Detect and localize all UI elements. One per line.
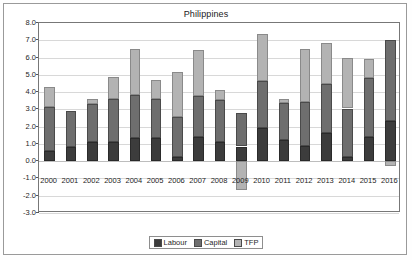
bar-segment-labour[interactable] [257, 128, 268, 161]
x-axis-tick-label: 2001 [59, 176, 80, 185]
legend-label-tfp: TFP [244, 238, 258, 247]
x-axis-tick-label: 2014 [336, 176, 357, 185]
capital-swatch-icon [194, 239, 202, 247]
bar-segment-capital[interactable] [300, 102, 311, 145]
legend-box: Labour Capital TFP [149, 236, 264, 249]
bar-segment-labour[interactable] [364, 137, 375, 161]
y-axis-ticks [0, 22, 40, 212]
bar-segment-labour[interactable] [151, 138, 162, 161]
bar-segment-labour[interactable] [385, 121, 396, 161]
bar-segment-tfp[interactable] [130, 49, 141, 95]
legend-label-capital: Capital [204, 238, 227, 247]
bar-segment-capital[interactable] [321, 84, 332, 132]
x-axis-tick-label: 2012 [294, 176, 315, 185]
bar-segment-labour[interactable] [66, 147, 77, 161]
bar-segment-capital[interactable] [279, 103, 290, 140]
bar-segment-capital[interactable] [87, 104, 98, 142]
bar-segment-labour[interactable] [44, 151, 55, 161]
bar-segment-capital[interactable] [66, 111, 77, 147]
bar-segment-capital[interactable] [193, 96, 204, 137]
bar-segment-capital[interactable] [342, 109, 353, 157]
x-axis-tick-label: 2002 [81, 176, 102, 185]
bar-segment-tfp[interactable] [279, 99, 290, 103]
bar-segment-labour[interactable] [215, 142, 226, 161]
chart-container: Philippines 8.07.06.05.04.03.02.01.00.0-… [0, 0, 412, 260]
bar-segment-tfp[interactable] [172, 72, 183, 117]
labour-swatch-icon [154, 239, 162, 247]
bar-segment-capital[interactable] [108, 99, 119, 142]
bar-segment-capital[interactable] [215, 100, 226, 142]
legend-item-capital[interactable]: Capital [194, 238, 227, 247]
tfp-swatch-icon [234, 239, 242, 247]
bar-segment-labour[interactable] [236, 147, 247, 162]
bar-segment-capital[interactable] [44, 107, 55, 151]
x-axis-tick-label: 2006 [166, 176, 187, 185]
x-axis-tick-label: 2010 [251, 176, 272, 185]
chart-title: Philippines [0, 9, 412, 19]
x-axis-tick-label: 2005 [144, 176, 165, 185]
chart-legend: Labour Capital TFP [0, 236, 412, 249]
x-axis-tick-label: 2008 [208, 176, 229, 185]
bar-segment-labour[interactable] [130, 138, 141, 161]
bar-segment-tfp[interactable] [364, 59, 375, 78]
legend-item-tfp[interactable]: TFP [234, 238, 258, 247]
bar-segment-tfp[interactable] [44, 87, 55, 107]
bar-segment-tfp[interactable] [342, 58, 353, 109]
x-axis-tick-label: 2011 [272, 176, 293, 185]
bar-segment-capital[interactable] [236, 113, 247, 147]
bar-segment-capital[interactable] [172, 117, 183, 157]
bar-segment-labour[interactable] [172, 157, 183, 161]
legend-item-labour[interactable]: Labour [154, 238, 187, 247]
bar-segment-labour[interactable] [193, 137, 204, 161]
bar-segment-labour[interactable] [108, 142, 119, 161]
bar-segment-capital[interactable] [151, 99, 162, 138]
bar-segment-tfp[interactable] [215, 90, 226, 100]
bar-segment-labour[interactable] [321, 133, 332, 162]
bar-segment-tfp[interactable] [300, 49, 311, 103]
x-axis-tick-label: 2007 [187, 176, 208, 185]
bar-segment-tfp[interactable] [151, 80, 162, 99]
legend-label-labour: Labour [164, 238, 187, 247]
x-axis-tick-label: 2004 [123, 176, 144, 185]
bar-segment-capital[interactable] [130, 95, 141, 138]
bar-segment-labour[interactable] [300, 146, 311, 162]
bar-segment-labour[interactable] [279, 140, 290, 161]
bar-segment-capital[interactable] [257, 81, 268, 129]
x-axis-tick-label: 2015 [357, 176, 378, 185]
bar-segment-capital[interactable] [385, 40, 396, 121]
bar-segment-labour[interactable] [342, 157, 353, 161]
x-axis-tick-label: 2009 [230, 176, 251, 185]
bar-segment-tfp[interactable] [321, 43, 332, 84]
bar-segment-tfp[interactable] [193, 50, 204, 97]
x-axis-labels: 2000200120022003200420052006200720082009… [38, 176, 400, 188]
x-axis-tick-label: 2016 [379, 176, 400, 185]
gridline [39, 213, 399, 214]
bar-segment-tfp[interactable] [108, 77, 119, 99]
bar-segment-capital[interactable] [364, 78, 375, 137]
x-axis-tick-label: 2013 [315, 176, 336, 185]
bar-segment-tfp[interactable] [385, 161, 396, 166]
bar-segment-tfp[interactable] [257, 34, 268, 81]
bar-segment-labour[interactable] [87, 142, 98, 161]
x-axis-tick-label: 2000 [38, 176, 59, 185]
bar-segment-tfp[interactable] [87, 99, 98, 104]
x-axis-tick-label: 2003 [102, 176, 123, 185]
